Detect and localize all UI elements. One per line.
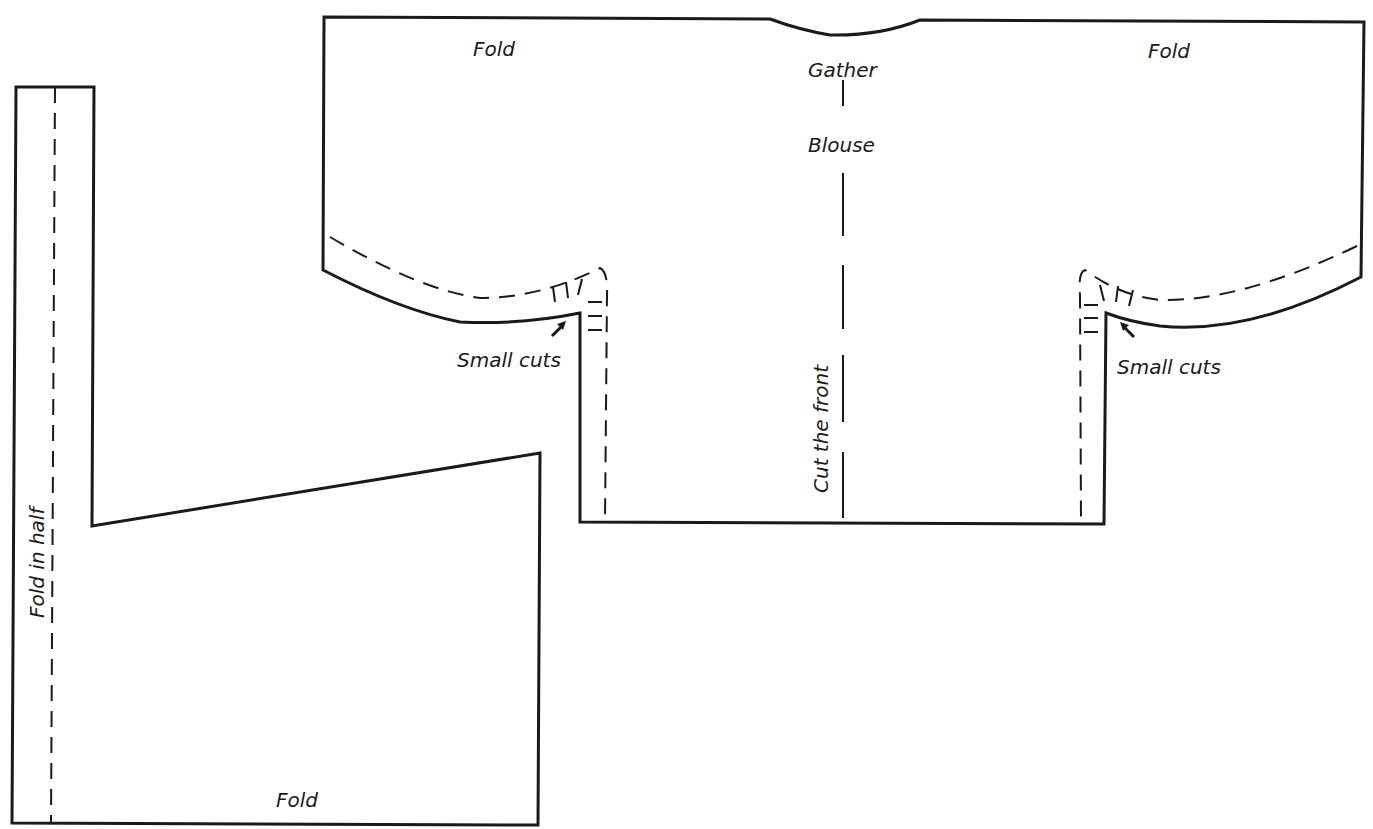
gather-label: Gather	[808, 58, 879, 82]
skirt-piece: Fold in half Fold	[12, 87, 540, 825]
left-small-cuts-marks	[553, 279, 602, 330]
blouse-title-label: Blouse	[808, 133, 875, 157]
skirt-outline	[12, 87, 540, 825]
skirt-fold-in-half-label: Fold in half	[25, 505, 49, 618]
blouse-fold-left-label: Fold	[473, 37, 515, 61]
skirt-fold-line	[51, 87, 55, 823]
cut-the-front-label: Cut the front	[809, 364, 833, 493]
right-arrow-icon	[1120, 322, 1134, 337]
small-cuts-right-label: Small cuts	[1117, 355, 1221, 379]
blouse-fold-right-label: Fold	[1148, 39, 1190, 63]
pattern-canvas: Fold in half Fold	[0, 0, 1373, 829]
blouse-piece: Fold Fold Gather Blouse Cut the front Sm…	[323, 17, 1364, 524]
small-cuts-left-label: Small cuts	[457, 348, 561, 372]
skirt-fold-bottom-label: Fold	[276, 788, 318, 812]
left-arrow-icon	[552, 321, 566, 336]
right-armhole-seam	[1080, 246, 1357, 522]
